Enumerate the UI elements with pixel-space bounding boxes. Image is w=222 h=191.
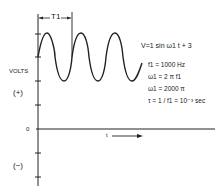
arrow-left-icon: [39, 17, 43, 20]
positive-label: (+): [13, 89, 23, 97]
arrow-right-icon: [67, 17, 71, 20]
x-axis-label: t: [106, 132, 108, 138]
zero-label: 0: [26, 126, 29, 132]
parameter-omega-formula: ω1 = 2 π f1: [148, 74, 181, 81]
parameter-frequency: f1 = 1000 Hz: [148, 62, 185, 69]
parameter-omega-value: ω1 = 2000 π: [148, 86, 185, 93]
y-axis-label: VOLTS: [9, 68, 28, 74]
parameter-period: τ = 1 / f1 = 10⁻³ sec: [148, 98, 205, 105]
sine-wave: [38, 33, 142, 81]
period-label: T1: [51, 13, 60, 21]
negative-label: (−): [13, 162, 23, 170]
equation-label: V=1 sin ω1 t + 3: [141, 42, 192, 49]
time-arrow-icon: [137, 134, 143, 138]
waveform-diagram: [0, 0, 222, 191]
